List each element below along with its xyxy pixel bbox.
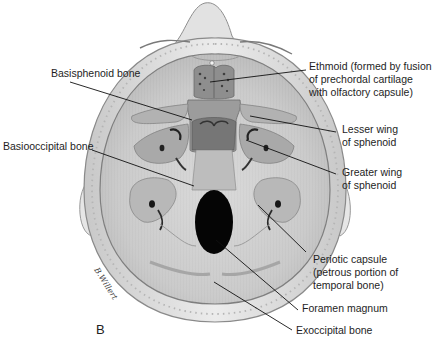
label-line: of sphenoid (342, 179, 402, 192)
basioccipital-cartilage (192, 150, 236, 190)
foramen-magnum (195, 190, 233, 254)
label-line: Basiooccipital bone (3, 140, 93, 153)
label-line: of prechordal cartilage (309, 73, 432, 86)
label-lesser-wing-of-sphenoid: Lesser wing of sphenoid (342, 123, 398, 149)
basisphenoid-cartilage (187, 100, 240, 153)
label-line: with olfactory capsule) (309, 86, 432, 99)
label-line: temporal bone) (313, 279, 398, 292)
label-ethmoid: Ethmoid (formed by fusion of prechordal … (309, 60, 432, 99)
label-line: of sphenoid (342, 136, 398, 149)
label-foramen-magnum: Foramen magnum (302, 302, 388, 315)
label-line: Foramen magnum (302, 302, 388, 315)
label-greater-wing-of-sphenoid: Greater wing of sphenoid (342, 166, 402, 192)
label-line: (petrous portion of (313, 266, 398, 279)
label-line: Basisphenoid bone (51, 67, 140, 80)
label-basisphenoid-bone: Basisphenoid bone (51, 67, 140, 80)
label-line: Ethmoid (formed by fusion (309, 60, 432, 73)
label-line: Exoccipital bone (296, 324, 372, 337)
label-line: Lesser wing (342, 123, 398, 136)
label-basioccipital-bone: Basiooccipital bone (3, 140, 93, 153)
panel-letter: B (96, 322, 105, 337)
label-line: Periotic capsule (313, 253, 398, 266)
label-line: Greater wing (342, 166, 402, 179)
label-exoccipital-bone: Exoccipital bone (296, 324, 372, 337)
label-periotic-capsule: Periotic capsule (petrous portion of tem… (313, 253, 398, 292)
